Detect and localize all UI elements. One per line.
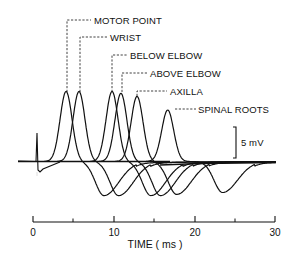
x-axis xyxy=(33,216,275,222)
x-tick-10: 10 xyxy=(108,227,120,238)
label-axilla: AXILLA xyxy=(170,86,203,97)
label-wrist: WRIST xyxy=(110,32,141,43)
cmap-latency-chart: MOTOR POINT WRIST BELOW ELBOW ABOVE ELBO… xyxy=(0,0,292,257)
label-below-elbow: BELOW ELBOW xyxy=(130,50,202,61)
scale-bar: 5 mV xyxy=(233,127,264,158)
label-motor-point: MOTOR POINT xyxy=(94,15,162,26)
label-spinal-roots: SPINAL ROOTS xyxy=(198,104,269,115)
scale-bar-label: 5 mV xyxy=(241,137,264,148)
x-axis-title: TIME ( ms ) xyxy=(128,238,183,250)
label-above-elbow: ABOVE ELBOW xyxy=(150,68,221,79)
x-tick-30: 30 xyxy=(269,227,281,238)
annotation-labels: MOTOR POINT WRIST BELOW ELBOW ABOVE ELBO… xyxy=(94,15,269,115)
x-tick-20: 20 xyxy=(189,227,201,238)
x-tick-0: 0 xyxy=(30,227,36,238)
waveform-spinal-roots xyxy=(146,110,276,192)
